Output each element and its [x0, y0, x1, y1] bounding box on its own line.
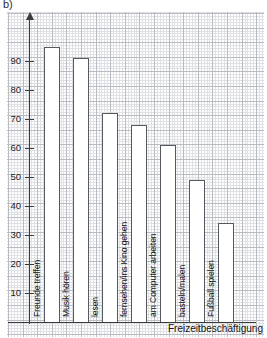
- y-tick-label-20: 20: [0, 259, 21, 269]
- y-tick-90: [25, 61, 34, 62]
- bar-musik-hoeren[interactable]: Musik hören: [73, 58, 89, 322]
- y-tick-label-70: 70: [0, 114, 21, 124]
- bar-label-fernsehen-kino: fernsehen/ins Kino gehen: [117, 117, 132, 317]
- bar-label-freunde-treffen: Freunde treffen: [30, 117, 45, 317]
- bar-am-computer-arbeiten[interactable]: am Computer arbeiten: [160, 145, 176, 322]
- bar-label-fussball-spielen: Fußball spielen: [204, 117, 219, 317]
- bar-label-basteln-malen: basteln/malen: [175, 117, 190, 317]
- bar-basteln-malen[interactable]: basteln/malen: [189, 180, 205, 322]
- y-tick-label-90: 90: [0, 56, 21, 66]
- x-axis-label: Freizeitbeschäftigung: [168, 323, 263, 335]
- bar-fussball-spielen[interactable]: Fußball spielen: [218, 223, 234, 322]
- y-tick-label-10: 10: [0, 288, 21, 298]
- bar-freunde-treffen[interactable]: Freunde treffen: [44, 47, 60, 323]
- bar-label-lesen: lesen: [88, 117, 103, 317]
- y-tick-80: [25, 90, 34, 91]
- part-label: b): [3, 0, 13, 10]
- y-tick-label-80: 80: [0, 85, 21, 95]
- y-tick-label-30: 30: [0, 230, 21, 240]
- y-tick-label-50: 50: [0, 172, 21, 182]
- y-tick-label-60: 60: [0, 143, 21, 153]
- bar-lesen[interactable]: lesen: [102, 113, 118, 322]
- y-axis-arrow-icon: [26, 12, 34, 20]
- y-tick-label-40: 40: [0, 201, 21, 211]
- bar-label-am-computer-arbeiten: am Computer arbeiten: [146, 117, 161, 317]
- bar-fernsehen-kino[interactable]: fernsehen/ins Kino gehen: [131, 125, 147, 322]
- bar-chart: 90 80 70 60 50 40 30 20 10 Freunde treff…: [0, 0, 267, 338]
- bar-label-musik-hoeren: Musik hören: [59, 117, 74, 317]
